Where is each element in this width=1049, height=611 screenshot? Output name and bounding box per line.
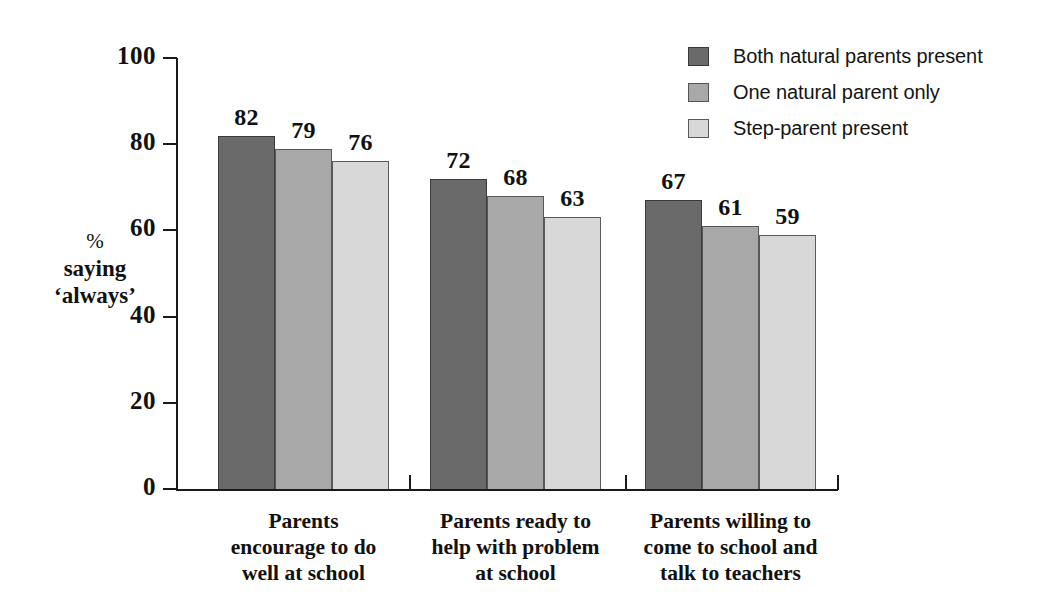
bar-chart: 020406080100 % saying ‘always’ 827976726… <box>0 0 1049 611</box>
legend-item-label: Both natural parents present <box>733 45 983 68</box>
y-axis-title-line-3: ‘always’ <box>54 283 136 308</box>
category-label-line: well at school <box>189 560 419 586</box>
y-axis-tick <box>163 143 177 145</box>
bar <box>544 217 601 489</box>
category-label-line: encourage to do <box>189 534 419 560</box>
x-axis-tick <box>837 475 839 490</box>
bar <box>702 226 759 489</box>
legend-swatch-icon <box>688 83 709 102</box>
y-axis-tick-label: 100 <box>90 42 156 70</box>
y-axis-tick <box>163 488 177 490</box>
legend: Both natural parents present One natural… <box>688 38 983 146</box>
x-axis-tick <box>625 475 627 490</box>
x-axis-tick <box>409 475 411 490</box>
x-axis-tick <box>176 475 178 490</box>
bar-value-label: 67 <box>637 168 710 195</box>
x-axis-category-label: Parents ready tohelp with problemat scho… <box>401 508 631 586</box>
legend-swatch-icon <box>688 47 709 66</box>
y-axis-title-line-2: saying <box>64 256 127 281</box>
bar-value-label: 76 <box>324 129 397 156</box>
category-label-line: Parents <box>189 508 419 534</box>
y-axis-tick-label: 20 <box>90 387 156 415</box>
legend-swatch-icon <box>688 119 709 138</box>
y-axis-line <box>176 58 178 490</box>
legend-item[interactable]: Both natural parents present <box>688 38 983 74</box>
y-axis-tick <box>163 402 177 404</box>
category-label-line: at school <box>401 560 631 586</box>
bar <box>275 149 332 489</box>
bar-value-label: 59 <box>751 203 824 230</box>
legend-item[interactable]: One natural parent only <box>688 74 983 110</box>
legend-item-label: Step-parent present <box>733 117 908 140</box>
category-label-line: Parents ready to <box>401 508 631 534</box>
y-axis-title-line-1: % <box>36 228 154 255</box>
category-label-line: Parents willing to <box>616 508 846 534</box>
category-label-line: help with problem <box>401 534 631 560</box>
category-label-line: come to school and <box>616 534 846 560</box>
x-axis-category-label: Parentsencourage to dowell at school <box>189 508 419 586</box>
bar <box>332 161 389 489</box>
bar <box>430 179 487 489</box>
y-axis-tick <box>163 57 177 59</box>
x-axis-line <box>176 489 838 491</box>
legend-item-label: One natural parent only <box>733 81 940 104</box>
y-axis-tick-label: 0 <box>90 473 156 501</box>
bar <box>218 136 275 489</box>
x-axis-category-label: Parents willing tocome to school andtalk… <box>616 508 846 586</box>
bar <box>759 235 816 489</box>
y-axis-tick-label: 80 <box>90 128 156 156</box>
category-label-line: talk to teachers <box>616 560 846 586</box>
y-axis-tick <box>163 229 177 231</box>
legend-item[interactable]: Step-parent present <box>688 110 983 146</box>
bar <box>645 200 702 489</box>
y-axis-title: % saying ‘always’ <box>36 228 154 309</box>
y-axis-tick <box>163 316 177 318</box>
bar <box>487 196 544 489</box>
bar-value-label: 63 <box>536 185 609 212</box>
